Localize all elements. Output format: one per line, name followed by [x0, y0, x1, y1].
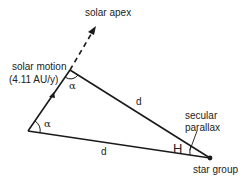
solar-motion-label: solar motion	[12, 61, 66, 73]
lower-d-label: d	[101, 146, 107, 158]
secular-label: secular	[185, 110, 217, 122]
alpha-bottom-arc	[35, 121, 40, 133]
alpha-bottom-label: α	[44, 118, 51, 130]
star-group-label: star group	[193, 164, 238, 176]
H-label: H	[173, 143, 182, 155]
solar-apex-label: solar apex	[85, 7, 131, 19]
secular-parallax-diagram: solar apex solar motion (4.11 AU/y) α α …	[0, 0, 247, 188]
arrow-icon	[49, 92, 55, 98]
solar-motion-value: (4.11 AU/y)	[9, 74, 58, 86]
apex-direction-line	[70, 31, 93, 70]
triangle-geometry	[0, 0, 247, 188]
upper-d-label: d	[136, 96, 142, 108]
star-group-dot	[208, 156, 213, 161]
alpha-top-label: α	[69, 80, 76, 92]
arrowhead-icon	[88, 26, 96, 35]
lower-distance-line	[28, 131, 210, 158]
parallax-label: parallax	[185, 122, 220, 134]
